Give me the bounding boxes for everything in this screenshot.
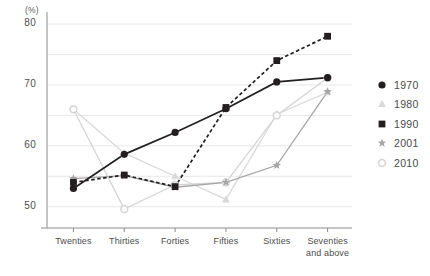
legend-item-2010[interactable]: 2010 [374, 153, 419, 173]
data-point-filled-circle [70, 185, 77, 192]
y-axis-tick-80: 80 [12, 17, 36, 28]
chart-figure: { "chart_data": { "type": "line", "title… [0, 0, 430, 276]
series-line-1970 [73, 78, 327, 189]
x-axis-tick-5: Seventiesand above [293, 236, 363, 259]
y-axis-tick-60: 60 [12, 139, 36, 150]
filled-circle-icon [374, 77, 390, 93]
legend-item-1990[interactable]: 1990 [374, 114, 419, 134]
series-line-2010 [73, 78, 327, 209]
data-point-open-circle [70, 106, 77, 113]
y-axis-unit-label: (%) [25, 5, 39, 15]
data-point-filled-square [324, 33, 331, 40]
legend-label: 2010 [394, 157, 419, 169]
data-point-filled-square [70, 179, 77, 186]
chart-legend: 19701980199020012010 [374, 75, 419, 173]
data-point-triangle [378, 100, 386, 107]
data-point-filled-square [121, 172, 128, 179]
data-point-open-circle [121, 206, 128, 213]
data-point-filled-square [273, 57, 280, 64]
data-point-filled-circle [172, 129, 179, 136]
data-point-filled-circle [273, 78, 280, 85]
legend-item-1970[interactable]: 1970 [374, 75, 419, 95]
legend-label: 1990 [394, 118, 419, 130]
data-point-filled-square [223, 104, 230, 111]
legend-item-1980[interactable]: 1980 [374, 95, 419, 115]
star-icon [374, 135, 390, 151]
triangle-icon [374, 96, 390, 112]
data-point-filled-square [172, 183, 179, 190]
y-axis-tick-70: 70 [12, 78, 36, 89]
legend-label: 1970 [394, 79, 419, 91]
data-point-open-circle [273, 112, 280, 119]
data-point-filled-circle [121, 151, 128, 158]
legend-label: 2001 [394, 137, 419, 149]
data-point-filled-square [379, 120, 386, 127]
legend-item-2001[interactable]: 2001 [374, 134, 419, 154]
open-circle-icon [374, 155, 390, 171]
data-point-open-circle [379, 159, 386, 166]
series-line-1990 [73, 36, 327, 186]
filled-square-icon [374, 116, 390, 132]
y-axis-tick-50: 50 [12, 200, 36, 211]
legend-label: 1980 [394, 98, 419, 110]
line-chart-plot [0, 0, 430, 276]
data-point-star [378, 139, 387, 147]
data-point-filled-circle [378, 81, 385, 88]
data-point-filled-circle [324, 74, 331, 81]
